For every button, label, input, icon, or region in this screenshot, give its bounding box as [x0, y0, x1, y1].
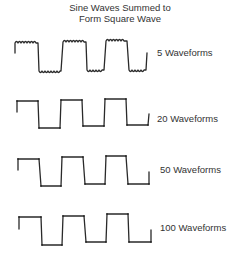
waveforms-diagram	[0, 0, 233, 260]
label-20-waveforms: 20 Waveforms	[157, 113, 218, 124]
label-50-waveforms: 50 Waveforms	[160, 164, 221, 175]
waveform-50	[17, 155, 150, 187]
label-100-waveforms: 100 Waveforms	[160, 222, 226, 233]
waveform-20	[16, 98, 149, 129]
waveform-5	[15, 40, 147, 73]
label-5-waveforms: 5 Waveforms	[157, 47, 213, 58]
waveform-100	[18, 213, 152, 246]
